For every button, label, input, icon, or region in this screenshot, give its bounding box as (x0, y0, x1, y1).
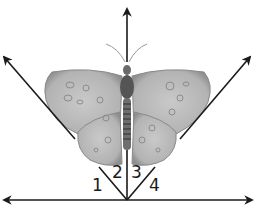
butterfly-image (45, 44, 210, 165)
angle-label-1: 1 (92, 177, 103, 194)
angle-label-2: 2 (112, 164, 123, 181)
angle-label-3: 3 (131, 164, 142, 181)
angle-diagram (0, 0, 258, 205)
angle-label-4: 4 (149, 177, 160, 194)
